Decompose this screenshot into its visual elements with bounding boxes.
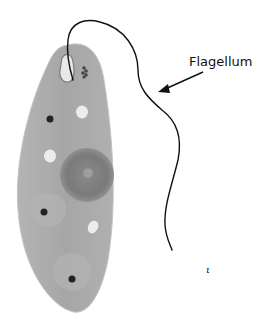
euglena-diagram: [0, 0, 267, 332]
stray-mark: ι: [206, 264, 210, 275]
arrowhead-icon: [158, 84, 170, 93]
nucleolus: [83, 168, 93, 178]
granule: [47, 116, 54, 123]
granule: [41, 209, 48, 216]
vacuole: [76, 106, 88, 119]
label-pointer-line: [163, 72, 203, 90]
granule: [69, 276, 76, 283]
vacuole: [44, 150, 56, 163]
flagellum-label: Flagellum: [189, 54, 252, 69]
